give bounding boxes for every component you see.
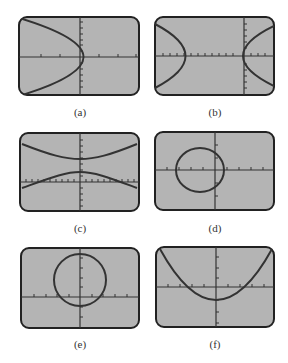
panel-d: [155, 132, 274, 210]
panel-a: [19, 17, 139, 96]
graph-panels: [0, 0, 288, 363]
panel-c: [20, 133, 139, 211]
label-e: (e): [60, 338, 100, 350]
panel-e: [21, 248, 139, 328]
label-d: (d): [195, 222, 235, 234]
label-c: (c): [60, 222, 100, 234]
label-a: (a): [60, 106, 100, 118]
panel-b: [155, 17, 274, 95]
panel-f: [156, 247, 274, 327]
label-f: (f): [195, 338, 235, 350]
label-b: (b): [195, 106, 235, 118]
